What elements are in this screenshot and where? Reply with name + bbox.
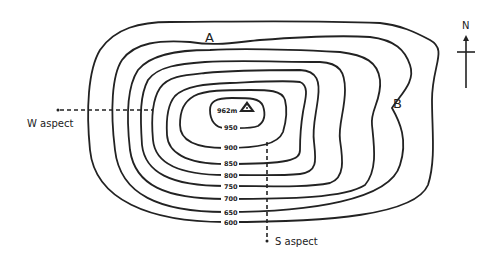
- label-700: 700: [224, 195, 238, 203]
- west-aspect-dot: [57, 109, 60, 112]
- north-label: N: [462, 20, 469, 31]
- south-aspect-dot: [266, 240, 269, 243]
- point-a-label: A: [205, 30, 214, 45]
- point-b-label: B: [393, 96, 402, 111]
- west-aspect-label: W aspect: [27, 118, 73, 129]
- north-arrow-icon: [457, 35, 475, 88]
- label-950: 950: [224, 124, 238, 132]
- label-650: 650: [224, 209, 238, 217]
- label-850: 850: [224, 160, 238, 168]
- south-aspect-label: S aspect: [275, 236, 318, 247]
- label-900: 900: [224, 144, 238, 152]
- contour-map: 950 900 850 800 750 700 650 600 962m A B…: [0, 0, 490, 258]
- label-750: 750: [224, 183, 238, 191]
- label-600: 600: [224, 219, 238, 227]
- summit-label: 962m: [217, 107, 238, 115]
- label-800: 800: [224, 172, 238, 180]
- summit-triangle-icon: [239, 101, 255, 112]
